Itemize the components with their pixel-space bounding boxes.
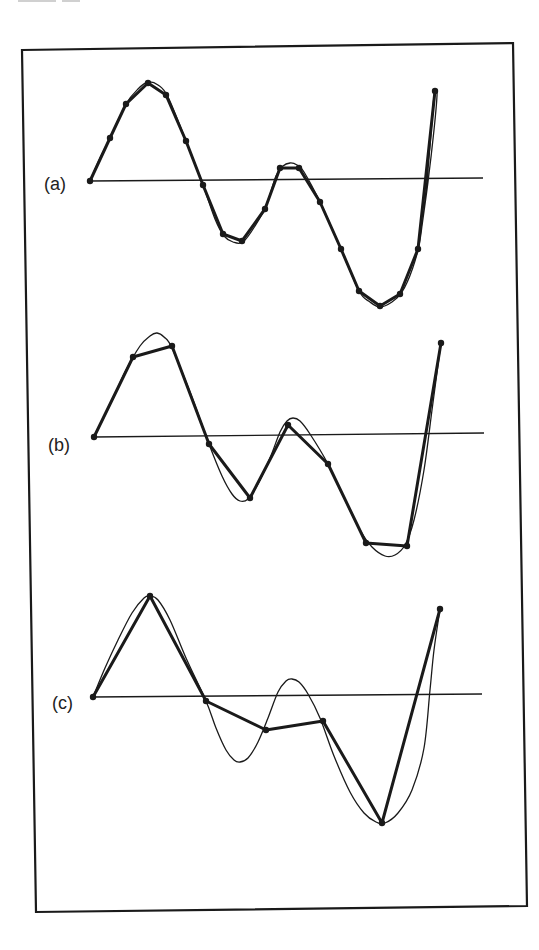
panel-b — [91, 333, 484, 557]
sample-point — [203, 698, 209, 704]
sample-point — [404, 543, 410, 549]
continuous-waveform — [93, 596, 440, 824]
sample-point — [432, 88, 438, 94]
sample-point — [130, 354, 136, 360]
sample-point — [263, 727, 269, 733]
sample-point — [220, 231, 226, 237]
sample-point — [262, 206, 268, 212]
sample-point — [206, 441, 212, 447]
continuous-waveform — [90, 82, 437, 307]
sample-point — [183, 138, 189, 144]
zero-axis-line — [93, 694, 482, 697]
sample-point — [169, 343, 175, 349]
sample-point — [285, 422, 291, 428]
sample-point — [325, 461, 331, 467]
panel-label-b: (b) — [48, 436, 70, 454]
sample-point — [107, 135, 113, 141]
sample-point — [247, 495, 253, 501]
sampled-polyline — [90, 83, 435, 306]
sample-point — [317, 199, 323, 205]
panel-a — [87, 80, 483, 309]
sample-point — [438, 340, 444, 346]
sample-point — [239, 238, 245, 244]
sample-point — [200, 182, 206, 188]
sample-point — [437, 606, 443, 612]
panel-label-c: (c) — [52, 694, 73, 712]
figure-frame — [22, 43, 527, 912]
sample-point — [379, 820, 385, 826]
panels-group — [87, 80, 484, 826]
sample-point — [338, 246, 344, 252]
sample-point — [163, 92, 169, 98]
sample-point — [377, 303, 383, 309]
sampled-polyline — [93, 596, 440, 823]
sample-point — [90, 694, 96, 700]
sample-point — [87, 178, 93, 184]
sample-point — [147, 593, 153, 599]
sampling-figure — [0, 0, 539, 950]
panel-c — [90, 593, 482, 826]
sample-point — [397, 291, 403, 297]
sampled-polyline — [94, 343, 441, 546]
sample-point — [296, 165, 302, 171]
sample-point — [91, 434, 97, 440]
sample-point — [363, 540, 369, 546]
sample-point — [320, 718, 326, 724]
continuous-waveform — [94, 333, 441, 557]
sample-point — [277, 165, 283, 171]
panel-label-a: (a) — [44, 175, 66, 193]
sample-point — [145, 80, 151, 86]
sample-point — [356, 288, 362, 294]
sample-point — [123, 101, 129, 107]
sample-point — [415, 246, 421, 252]
